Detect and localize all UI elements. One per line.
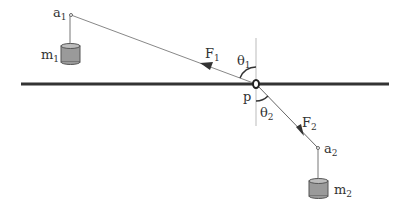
diagram-canvas: a1 m1 F1 θ1 p θ2 F2 a2 m2 <box>0 0 403 214</box>
label-p: p <box>243 89 251 104</box>
label-theta1: θ1 <box>237 53 251 70</box>
label-a1: a1 <box>53 5 67 22</box>
label-theta2: θ2 <box>260 105 274 122</box>
pivot-p <box>253 80 259 88</box>
mass-m2 <box>309 179 328 199</box>
string-a1-p <box>71 15 256 84</box>
pulley-force-diagram: a1 m1 F1 θ1 p θ2 F2 a2 m2 <box>0 0 403 214</box>
theta2-arc <box>256 96 268 101</box>
mass-m1 <box>61 44 80 65</box>
force-arrow-F1 <box>200 62 213 70</box>
label-m2: m2 <box>334 182 352 199</box>
label-F1: F1 <box>205 46 220 63</box>
label-m1: m1 <box>41 47 59 64</box>
label-a2: a2 <box>324 141 338 158</box>
label-F2: F2 <box>302 115 317 132</box>
